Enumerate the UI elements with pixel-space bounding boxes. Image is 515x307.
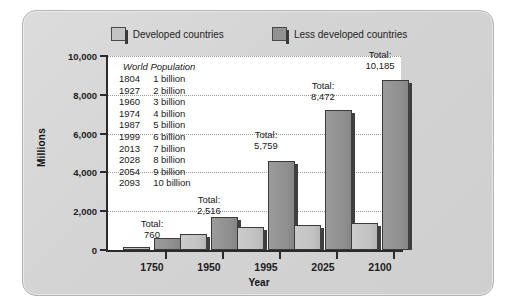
x-label-1750: 1750	[122, 261, 182, 273]
annotation-total-2100: Total: 10,185	[345, 49, 415, 71]
y-axis-labels: 10,000 8,000 6,000 4,000 2,000 0	[47, 11, 97, 297]
world-population-row: 1987 5 billion	[119, 119, 191, 131]
annotation-total-2025: Total: 8,472	[288, 80, 358, 102]
wp-amount: 1 billion	[153, 73, 191, 85]
bar-2025-developed	[294, 225, 321, 250]
world-population-row: 2028 8 billion	[119, 154, 191, 166]
x-label-1995: 1995	[236, 261, 296, 273]
world-population-rows: 1804 1 billion 1927 2 billion 1960 3 bil…	[119, 73, 191, 189]
world-population-row: 1927 2 billion	[119, 85, 191, 97]
wp-year: 2028	[119, 154, 153, 166]
wp-year: 2093	[119, 177, 153, 189]
wp-amount: 9 billion	[153, 166, 191, 178]
wp-amount: 2 billion	[153, 85, 191, 97]
wp-year: 2013	[119, 143, 153, 155]
y-tick-6000	[100, 133, 107, 135]
world-population-row: 1974 4 billion	[119, 108, 191, 120]
bar-2025-less-developed	[325, 110, 352, 250]
legend-label-developed: Developed countries	[133, 29, 224, 40]
y-axis-title: Millions	[36, 118, 47, 178]
bar-1950-less-developed	[211, 217, 238, 250]
wp-amount: 8 billion	[153, 154, 191, 166]
y-label-8000: 8,000	[51, 89, 97, 100]
wp-amount: 3 billion	[153, 96, 191, 108]
x-tick-2	[279, 251, 281, 259]
legend-label-less-developed: Less developed countries	[294, 29, 407, 40]
chart-panel: Developed countries Less developed count…	[22, 10, 494, 296]
y-tick-2000	[100, 210, 107, 212]
x-axis-line	[106, 250, 403, 252]
wp-amount: 4 billion	[153, 108, 191, 120]
x-tick-4	[393, 251, 395, 259]
y-label-4000: 4,000	[51, 167, 97, 178]
wp-amount: 10 billion	[153, 177, 191, 189]
wp-year: 2054	[119, 166, 153, 178]
y-tick-10000	[100, 55, 107, 57]
x-tick-1	[222, 251, 224, 259]
x-axis-title: Year	[23, 277, 495, 288]
wp-year: 1804	[119, 73, 153, 85]
y-label-6000: 6,000	[51, 128, 97, 139]
bar-2100-less-developed	[382, 80, 409, 250]
bar-1995-developed	[237, 227, 264, 250]
y-axis-line	[106, 55, 108, 251]
world-population-row: 1960 3 billion	[119, 96, 191, 108]
wp-year: 1960	[119, 96, 153, 108]
x-label-2025: 2025	[293, 261, 353, 273]
legend-swatch-developed-icon	[111, 27, 126, 41]
wp-amount: 7 billion	[153, 143, 191, 155]
x-label-1950: 1950	[179, 261, 239, 273]
legend-item-developed: Developed countries	[111, 27, 224, 41]
y-label-10000: 10,000	[51, 51, 97, 62]
annotation-total-1750: Total: 760	[117, 218, 187, 240]
wp-year: 1987	[119, 119, 153, 131]
x-tick-3	[336, 251, 338, 259]
wp-year: 1974	[119, 108, 153, 120]
wp-amount: 5 billion	[153, 119, 191, 131]
y-label-0: 0	[51, 245, 97, 256]
y-label-2000: 2,000	[51, 206, 97, 217]
y-tick-8000	[100, 94, 107, 96]
world-population-row: 2093 10 billion	[119, 177, 191, 189]
wp-year: 1927	[119, 85, 153, 97]
world-population-row: 1804 1 billion	[119, 73, 191, 85]
bar-2100-developed	[351, 223, 378, 250]
legend-item-less-developed: Less developed countries	[272, 27, 407, 41]
annotation-total-1995: Total: 5,759	[231, 129, 301, 151]
wp-year: 1999	[119, 131, 153, 143]
world-population-inset: World Population 1804 1 billion 1927 2 b…	[119, 61, 195, 189]
gridline-2000	[107, 211, 401, 212]
legend-swatch-less-developed-icon	[272, 27, 287, 41]
world-population-title: World Population	[119, 61, 195, 73]
world-population-row: 2054 9 billion	[119, 166, 191, 178]
y-tick-4000	[100, 171, 107, 173]
bar-1995-less-developed	[268, 161, 295, 250]
x-tick-0	[165, 251, 167, 259]
annotation-total-1950: Total: 2,516	[174, 194, 244, 216]
world-population-row: 1999 6 billion	[119, 131, 191, 143]
x-label-2100: 2100	[350, 261, 410, 273]
wp-amount: 6 billion	[153, 131, 191, 143]
world-population-row: 2013 7 billion	[119, 143, 191, 155]
